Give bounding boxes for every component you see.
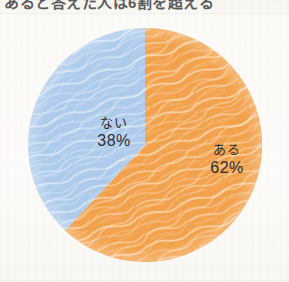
- slice-label-aru: ある 62%: [191, 143, 263, 176]
- page-bottom-edge: [0, 280, 289, 281]
- clipped-header-text: あると答えた人は6割を超える: [4, 0, 214, 12]
- clipped-header-line: あると答えた人は6割を超える: [0, 0, 289, 13]
- pie-chart: ない 38% ある 62%: [0, 14, 289, 282]
- slice-label-nai: ない 38%: [78, 116, 150, 149]
- pie-graphic: ない 38% ある 62%: [28, 28, 262, 262]
- slice-label-aru-value: 62%: [191, 159, 263, 176]
- slice-label-aru-name: ある: [191, 143, 263, 157]
- slice-label-nai-name: ない: [78, 116, 150, 130]
- slice-label-nai-value: 38%: [78, 132, 150, 149]
